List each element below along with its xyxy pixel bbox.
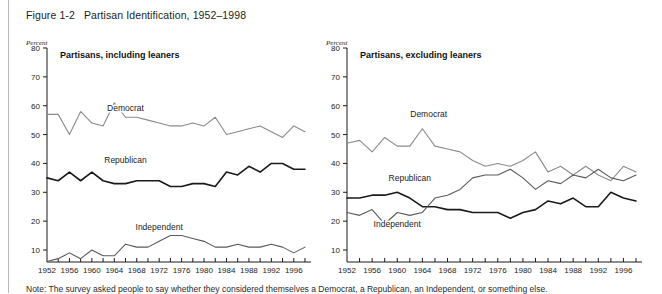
figure-note: Note: The survey asked people to say whe…	[26, 284, 547, 294]
y-tick-label: 80	[331, 44, 340, 53]
x-tick-label: 1996	[615, 266, 633, 275]
x-tick-label: 1952	[338, 266, 356, 275]
x-tick-label: 1964	[413, 266, 431, 275]
series-label-democrat: Democrat	[410, 109, 447, 119]
y-tick-label: 60	[331, 102, 340, 111]
series-label-republican: Republican	[389, 173, 432, 183]
x-tick-label: 1976	[489, 266, 507, 275]
x-tick-label: 1956	[363, 266, 381, 275]
x-tick-label: 1972	[464, 266, 482, 275]
y-tick-label: 70	[331, 73, 340, 82]
x-tick-label: 1968	[439, 266, 457, 275]
y-tick-label: 50	[331, 131, 340, 140]
y-tick-label: 40	[331, 159, 340, 168]
x-tick-label: 1980	[514, 266, 532, 275]
series-line-republican	[347, 192, 636, 218]
x-tick-label: 1992	[589, 266, 607, 275]
y-tick-label: 10	[331, 246, 340, 255]
x-tick-label: 1988	[564, 266, 582, 275]
x-tick-label: 1960	[388, 266, 406, 275]
x-tick-label: 1984	[539, 266, 557, 275]
series-label-independent: Independent	[374, 219, 422, 229]
y-tick-label: 20	[331, 217, 340, 226]
y-tick-label: 30	[331, 188, 340, 197]
